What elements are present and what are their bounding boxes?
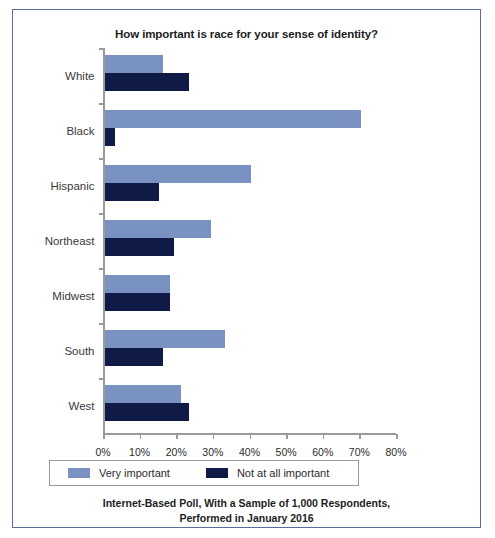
bar [105,110,361,128]
bar [105,330,226,348]
bar [105,293,171,311]
legend-swatch-not-at-all-important [206,468,228,478]
bar [105,403,189,421]
chart-title: How important is race for your sense of … [13,28,480,40]
bar [105,275,171,293]
category-label: South [64,345,94,357]
x-tick [396,434,398,439]
y-tick [99,103,103,105]
y-tick [99,323,103,325]
x-tick [176,434,178,439]
x-tick [250,434,252,439]
category-label: Black [66,125,94,137]
category-label: Hispanic [50,180,94,192]
x-tick-label: 80% [374,446,418,458]
chart-figure: How important is race for your sense of … [12,9,481,528]
legend-item-very-important: Very important [68,467,170,479]
caption-line-2: Performed in January 2016 [13,511,480,526]
bar-group: South [105,323,397,378]
y-tick [99,213,103,215]
legend-label-not-at-all-important: Not at all important [237,467,329,479]
x-tick [359,434,361,439]
bar [105,183,160,201]
bar [105,55,164,73]
x-tick [140,434,142,439]
legend-swatch-very-important [68,468,90,478]
bar [105,73,189,91]
y-tick [99,268,103,270]
category-label: Northeast [45,235,95,247]
legend-label-very-important: Very important [99,467,170,479]
y-tick [99,48,103,50]
category-label: Midwest [52,290,94,302]
bar-group: Black [105,103,397,158]
bar-group: Midwest [105,268,397,323]
bar-group: White [105,48,397,103]
bar [105,238,175,256]
legend-item-not-at-all-important: Not at all important [206,467,329,479]
y-tick [99,378,103,380]
bar [105,348,164,366]
bar-group: Northeast [105,213,397,268]
chart-legend: Very important Not at all important [49,460,359,486]
category-label: White [65,70,94,82]
x-tick [213,434,215,439]
x-tick [103,434,105,439]
bar [105,165,252,183]
bar [105,220,211,238]
bar [105,128,116,146]
category-label: West [69,400,95,412]
bar [105,385,182,403]
plot-area: 0%10%20%30%40%50%60%70%80% WhiteBlackHis… [103,48,396,433]
bar-group: Hispanic [105,158,397,213]
x-tick [286,434,288,439]
caption-line-1: Internet-Based Poll, With a Sample of 1,… [13,496,480,511]
chart-caption: Internet-Based Poll, With a Sample of 1,… [13,496,480,526]
x-tick [323,434,325,439]
y-tick [99,158,103,160]
bar-group: West [105,378,397,433]
